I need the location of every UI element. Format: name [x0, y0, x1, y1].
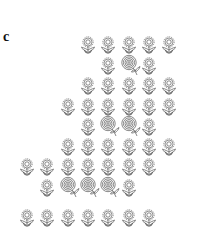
daisy-flower-icon	[79, 117, 97, 137]
panel-label: c	[3, 30, 9, 44]
daisy-flower-icon	[18, 208, 36, 228]
rose-with-stem-icon	[79, 176, 101, 198]
daisy-flower-icon	[140, 56, 158, 76]
daisy-flower-icon	[79, 76, 97, 96]
daisy-flower-icon	[140, 137, 158, 157]
rose-with-stem-icon	[99, 176, 121, 198]
daisy-flower-icon	[120, 76, 138, 96]
daisy-flower-icon	[140, 157, 158, 177]
daisy-flower-icon	[59, 137, 77, 157]
daisy-flower-icon	[140, 117, 158, 137]
daisy-flower-icon	[120, 157, 138, 177]
daisy-flower-icon	[59, 208, 77, 228]
daisy-flower-icon	[160, 76, 178, 96]
rose-with-stem-icon	[59, 176, 81, 198]
daisy-flower-icon	[120, 208, 138, 228]
daisy-flower-icon	[79, 35, 97, 55]
daisy-flower-icon	[160, 97, 178, 117]
rose-with-stem-icon	[120, 54, 142, 76]
daisy-flower-icon	[120, 137, 138, 157]
daisy-flower-icon	[79, 208, 97, 228]
rose-with-stem-icon	[99, 115, 121, 137]
daisy-flower-icon	[160, 137, 178, 157]
daisy-flower-icon	[120, 178, 138, 198]
daisy-flower-icon	[59, 97, 77, 117]
daisy-flower-icon	[79, 157, 97, 177]
daisy-flower-icon	[99, 97, 117, 117]
daisy-flower-icon	[38, 208, 56, 228]
daisy-flower-icon	[140, 35, 158, 55]
daisy-flower-icon	[99, 157, 117, 177]
rose-with-stem-icon	[120, 115, 142, 137]
daisy-flower-icon	[59, 157, 77, 177]
daisy-flower-icon	[79, 97, 97, 117]
daisy-flower-icon	[99, 76, 117, 96]
daisy-flower-icon	[38, 178, 56, 198]
daisy-flower-icon	[140, 97, 158, 117]
daisy-flower-icon	[99, 35, 117, 55]
daisy-flower-icon	[140, 76, 158, 96]
daisy-flower-icon	[99, 137, 117, 157]
daisy-flower-icon	[140, 208, 158, 228]
daisy-flower-icon	[18, 157, 36, 177]
daisy-flower-icon	[160, 35, 178, 55]
daisy-flower-icon	[99, 208, 117, 228]
daisy-flower-icon	[79, 137, 97, 157]
daisy-flower-icon	[38, 157, 56, 177]
daisy-flower-icon	[120, 97, 138, 117]
daisy-flower-icon	[120, 35, 138, 55]
daisy-flower-icon	[99, 56, 117, 76]
